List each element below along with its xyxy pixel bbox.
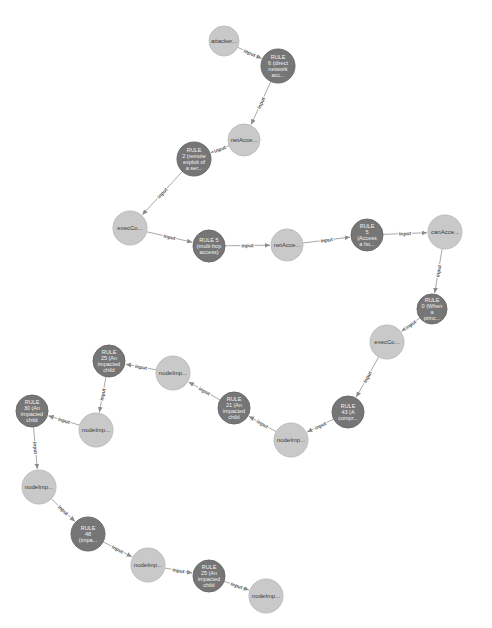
node-label: netAcce... <box>274 242 301 248</box>
edge-n3-n4[interactable]: input <box>211 143 229 154</box>
node-label: acc... <box>271 72 285 78</box>
node-label: (impa... <box>79 537 98 543</box>
rule-node-n12[interactable]: RULE43 (Acompr... <box>332 396 364 428</box>
edge-n13-n14[interactable]: input <box>249 416 276 431</box>
node-label: a ser... <box>186 165 203 171</box>
edge-label: input <box>98 388 106 401</box>
edge-n7-n8[interactable]: input <box>303 236 350 244</box>
node-label: nodeImp... <box>252 593 281 599</box>
node-label: execCo... <box>374 339 400 345</box>
edge-n22-n23[interactable]: input <box>224 580 249 591</box>
edge-n20-n21[interactable]: input <box>103 542 132 557</box>
fact-node-n15[interactable]: nodeImp... <box>156 356 190 390</box>
edge-label: input <box>57 416 71 425</box>
edge-label: input <box>241 242 254 248</box>
edge-n11-n12[interactable]: input <box>356 357 378 397</box>
edge-n5-n6[interactable]: input <box>147 232 193 242</box>
edge-n2-n3[interactable]: input <box>251 81 271 124</box>
edge-label: input <box>230 581 244 591</box>
node-label: child <box>228 414 239 420</box>
node-label: nodeImp... <box>159 370 188 376</box>
edge-label: input <box>399 230 412 236</box>
fact-node-n5[interactable]: execCo... <box>113 211 147 245</box>
edge-n12-n13[interactable]: input <box>307 419 333 432</box>
fact-node-n11[interactable]: execCo... <box>370 325 404 359</box>
fact-node-n3[interactable]: netAcce... <box>228 124 260 156</box>
edge-label: input <box>434 264 442 277</box>
edge-label: input <box>32 442 39 455</box>
edge-n4-n5[interactable]: input <box>142 171 182 214</box>
node-label: princ... <box>424 315 441 321</box>
edge-n16-n17[interactable]: input <box>98 377 107 413</box>
edge-n18-n19[interactable]: input <box>32 427 40 469</box>
edge-n19-n20[interactable]: input <box>51 499 75 522</box>
node-label: nodeImp... <box>82 427 111 433</box>
node-label: attacker... <box>211 38 237 44</box>
node-label: nodeImp... <box>134 562 163 568</box>
edge-n10-n11[interactable]: input <box>402 318 420 332</box>
node-label: child <box>26 417 37 423</box>
fact-node-n9[interactable]: canAcce... <box>428 215 462 249</box>
attack-graph-canvas[interactable]: inputinputinputinputinputinputinputinput… <box>0 0 492 628</box>
edge-label: input <box>163 233 177 242</box>
edge-label: input <box>172 566 185 574</box>
edge-n1-n2[interactable]: input <box>238 47 262 59</box>
fact-node-n21[interactable]: nodeImp... <box>131 548 165 582</box>
rule-node-n18[interactable]: RULE30 (Animpactedchild <box>16 395 48 427</box>
edge-n17-n18[interactable]: input <box>48 415 79 425</box>
node-label: child <box>103 367 114 373</box>
node-label: child <box>203 582 214 588</box>
fact-node-n23[interactable]: nodeImp... <box>249 579 283 613</box>
fact-node-n13[interactable]: nodeImp... <box>274 423 308 457</box>
edge-n6-n7[interactable]: input <box>225 242 270 248</box>
edge-n9-n10[interactable]: input <box>434 249 443 293</box>
node-label: nodeImp... <box>25 484 54 490</box>
node-label: canAcce... <box>431 229 459 235</box>
fact-node-n1[interactable]: attacker... <box>209 26 239 56</box>
edge-n21-n22[interactable]: input <box>165 566 193 575</box>
edge-label: input <box>213 144 227 154</box>
node-label: a ho... <box>359 241 375 247</box>
node-label: netAcce... <box>231 137 258 143</box>
rule-node-n6[interactable]: RULE 5(multi-hopaccess) <box>193 230 225 262</box>
fact-node-n17[interactable]: nodeImp... <box>79 413 113 447</box>
rule-node-n14[interactable]: RULE21 (Animpactedchild <box>218 392 250 424</box>
rule-node-n22[interactable]: RULE25 (Animpactedchild <box>193 560 225 592</box>
edge-n15-n16[interactable]: input <box>126 362 157 371</box>
edge-label: input <box>134 363 147 371</box>
fact-node-n7[interactable]: netAcce... <box>271 229 303 261</box>
node-label: compr... <box>338 415 358 421</box>
rule-node-n4[interactable]: RULE2 (remoteexploit ofa ser... <box>177 142 211 176</box>
rule-node-n2[interactable]: RULE6 (directnetworkacc... <box>261 49 295 83</box>
edge-n14-n15[interactable]: input <box>189 382 221 400</box>
edge-label: input <box>320 236 333 244</box>
edge-n8-n9[interactable]: input <box>383 230 427 237</box>
rule-node-n16[interactable]: RULE25 (Animpactedchild <box>93 345 125 377</box>
node-label: access) <box>200 249 219 255</box>
node-label: nodeImp... <box>277 437 306 443</box>
fact-node-n19[interactable]: nodeImp... <box>22 470 56 504</box>
nodes-layer: attacker...RULE6 (directnetworkacc...net… <box>16 26 462 613</box>
rule-node-n10[interactable]: RULE0 (Whenaprinc... <box>417 294 447 324</box>
rule-node-n8[interactable]: RULE5(Accessa ho... <box>351 219 383 251</box>
node-label: execCo... <box>117 225 143 231</box>
rule-node-n20[interactable]: RULE48(impa... <box>71 517 105 551</box>
